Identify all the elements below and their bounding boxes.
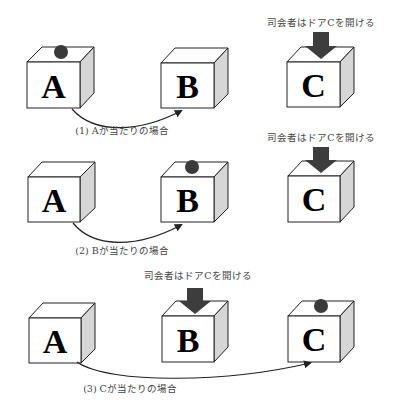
- door-letter: A: [41, 68, 66, 105]
- scenario-row-2: A B C 司会者はドアCを開ける (2) Bが当たりの場合: [28, 132, 375, 256]
- door-letter: B: [177, 322, 200, 359]
- host-action-label: 司会者はドアCを開ける: [267, 132, 374, 143]
- switch-arrow: [77, 362, 310, 378]
- scenario-row-1: A B C 司会者はドアCを開ける (1) Aが当たりの場合: [27, 17, 375, 136]
- door-box-c: C: [287, 32, 354, 107]
- door-letter: A: [42, 182, 67, 219]
- switch-arrow: [73, 223, 181, 242]
- prize-ball-icon: [54, 45, 68, 59]
- door-letter: C: [302, 321, 327, 358]
- door-letter: B: [176, 68, 199, 105]
- door-letter: C: [302, 181, 327, 218]
- door-letter: C: [301, 67, 326, 104]
- scenario-caption: (1) Aが当たりの場合: [75, 125, 168, 136]
- prize-ball-icon: [314, 299, 328, 313]
- host-action-label: 司会者はドアCを開ける: [267, 17, 374, 28]
- host-action-label: 司会者はドアCを開ける: [144, 270, 251, 281]
- door-box-a: A: [27, 45, 94, 108]
- door-letter: B: [176, 182, 199, 219]
- door-box-b: B: [161, 160, 228, 222]
- scenario-caption: (3) Cが当たりの場合: [83, 383, 177, 394]
- door-box-c: C: [288, 147, 354, 222]
- door-box-c: C: [288, 299, 354, 362]
- scenario-row-3: A B C 司会者はドアCを開ける (3) Cが当たりの場合: [29, 270, 354, 394]
- door-box-a: A: [28, 162, 95, 222]
- scenario-caption: (2) Bが当たりの場合: [75, 245, 168, 256]
- door-box-a: A: [29, 303, 95, 363]
- door-letter: A: [43, 323, 68, 360]
- prize-ball-icon: [185, 160, 199, 174]
- door-box-b: B: [161, 48, 228, 108]
- monty-hall-diagram: A B C 司会者はドアCを開ける (1) Aが当たりの場合 A: [0, 0, 395, 417]
- door-box-b: B: [162, 288, 228, 362]
